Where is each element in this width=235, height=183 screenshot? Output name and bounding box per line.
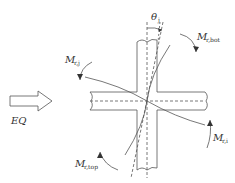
- theta-sub: j: [157, 16, 160, 24]
- m-j-sub: r,j: [74, 59, 80, 67]
- theta-label: θ: [151, 11, 157, 22]
- m-i-sub: r,i: [222, 137, 228, 144]
- m-top-sub: r,top: [84, 163, 98, 171]
- eq-label: EQ: [10, 115, 27, 126]
- m-bot-sub: r,bot: [206, 36, 221, 43]
- joint-diagram: θ j M r,bot M r,j M r,i M r,top EQ: [0, 0, 235, 183]
